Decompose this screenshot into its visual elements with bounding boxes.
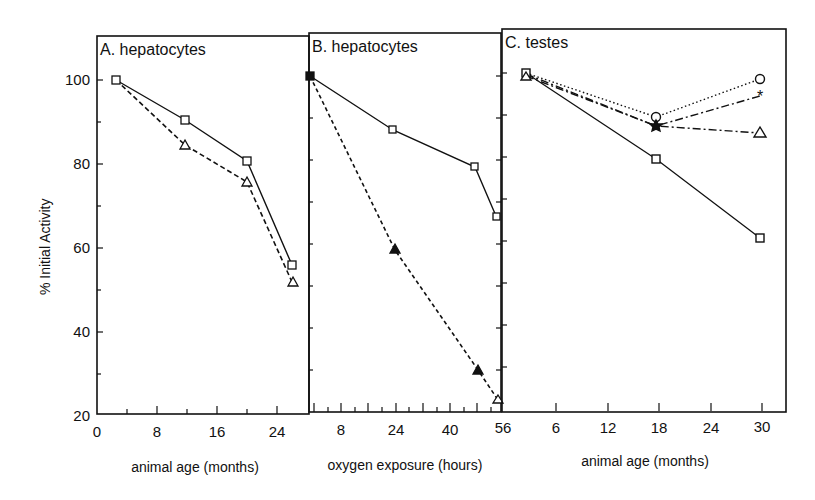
triangle-marker bbox=[242, 177, 252, 186]
circle-marker bbox=[756, 75, 765, 84]
panel-c-series-circles bbox=[526, 73, 760, 117]
panel-b-series-triangles bbox=[310, 76, 498, 400]
y-tick-100: 100 bbox=[65, 71, 90, 88]
panel-a-x-tick-8: 8 bbox=[153, 423, 161, 440]
panel-c-frame bbox=[502, 29, 786, 412]
panel-c-x-tick-30: 30 bbox=[754, 418, 771, 435]
panel-c-x-tick-12: 12 bbox=[600, 419, 617, 436]
panel-a: A. hepatocytes 0 8 16 24 animal age (mon… bbox=[93, 36, 309, 475]
square-marker bbox=[181, 116, 189, 124]
panel-a-y-ticks bbox=[97, 80, 103, 374]
triangle-marker-filled bbox=[473, 365, 483, 374]
panel-a-x-axis-label: animal age (months) bbox=[131, 459, 259, 475]
triangle-marker bbox=[754, 127, 766, 137]
panel-c-x-tick-24: 24 bbox=[703, 419, 720, 436]
panel-c-series-squares bbox=[526, 73, 760, 238]
star-marker: * bbox=[757, 88, 763, 105]
panel-a-x-ticks bbox=[127, 406, 277, 414]
y-tick-60: 60 bbox=[73, 239, 90, 256]
figure-canvas: % Initial Activity 100 80 60 40 20 A. he… bbox=[0, 0, 815, 500]
panel-c-x-tick-18: 18 bbox=[651, 419, 668, 436]
panel-c-x-tick-6: 6 bbox=[552, 419, 560, 436]
y-tick-labels: 100 80 60 40 20 bbox=[65, 71, 90, 424]
panel-a-series-squares bbox=[116, 80, 292, 265]
panel-b-x-tick-24: 24 bbox=[388, 421, 405, 438]
square-marker bbox=[243, 157, 251, 165]
panel-c-x-ticks bbox=[556, 403, 762, 411]
panel-a-x-tick-16: 16 bbox=[209, 423, 226, 440]
y-tick-20: 20 bbox=[73, 407, 90, 424]
panel-b-y-ticks bbox=[309, 76, 501, 370]
panel-c-markers bbox=[521, 69, 766, 242]
panel-b-frame bbox=[309, 33, 501, 412]
panel-b-markers bbox=[306, 72, 503, 403]
panel-c-x-axis-label: animal age (months) bbox=[581, 453, 709, 469]
panel-a-markers bbox=[112, 76, 298, 286]
square-marker bbox=[288, 261, 296, 269]
y-axis-label: % Initial Activity bbox=[37, 199, 53, 295]
square-marker bbox=[493, 213, 500, 220]
square-marker-filled bbox=[306, 72, 314, 80]
square-marker bbox=[389, 126, 396, 133]
panel-c: C. testes 6 12 18 24 30 animal age (mont… bbox=[502, 29, 786, 469]
square-marker bbox=[756, 234, 764, 242]
square-marker bbox=[471, 163, 478, 170]
panel-b: B. hepatocytes 8 24 40 56 oxygen exposur… bbox=[306, 33, 511, 473]
panel-b-x-tick-56: 56 bbox=[495, 419, 512, 436]
y-tick-40: 40 bbox=[73, 323, 90, 340]
square-marker bbox=[112, 76, 120, 84]
panel-b-x-tick-8: 8 bbox=[337, 421, 345, 438]
triangle-marker-filled bbox=[390, 244, 400, 253]
square-marker bbox=[652, 155, 660, 163]
panel-b-title: B. hepatocytes bbox=[312, 38, 418, 55]
panel-a-x-tick-24: 24 bbox=[269, 423, 286, 440]
panel-a-title: A. hepatocytes bbox=[100, 41, 206, 58]
panel-c-series-stars bbox=[526, 74, 760, 126]
panel-c-title: C. testes bbox=[505, 34, 568, 51]
y-tick-80: 80 bbox=[73, 155, 90, 172]
panel-b-x-tick-40: 40 bbox=[442, 421, 459, 438]
panel-b-x-ticks bbox=[314, 403, 491, 412]
panel-a-x-tick-0: 0 bbox=[93, 423, 101, 440]
panel-b-x-axis-label: oxygen exposure (hours) bbox=[328, 457, 483, 473]
panel-b-series-squares bbox=[310, 76, 496, 216]
star-marker bbox=[650, 120, 662, 131]
panel-a-series-triangles bbox=[116, 80, 292, 282]
